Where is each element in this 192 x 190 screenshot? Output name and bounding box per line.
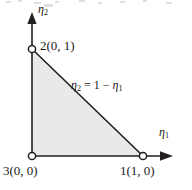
hypotenuse-equation-label: η2 = 1 − η1	[71, 79, 123, 93]
equation-operator: =	[84, 78, 91, 92]
equation-rhs-subscript: 1	[119, 84, 123, 93]
equation-lhs-subscript: 2	[77, 84, 81, 93]
vertex-marker-node-1	[139, 152, 146, 159]
figure-canvas	[0, 0, 192, 190]
reference-triangle-figure: η2 η1 2(0, 1) 3(0, 0) 1(1, 0) η2 = 1 − η…	[0, 0, 192, 190]
vertex-label-node-3: 3(0, 0)	[3, 164, 38, 177]
x-axis-label: η1	[159, 126, 169, 140]
vertex-marker-node-2	[28, 45, 35, 52]
y-axis-label-subscript: 2	[44, 8, 48, 17]
arrow-up-icon	[27, 12, 36, 24]
x-axis-label-subscript: 1	[165, 131, 169, 140]
vertex-marker-node-3	[28, 152, 35, 159]
equation-rhs-minus: −	[103, 78, 110, 92]
y-axis-label: η2	[38, 3, 48, 17]
vertex-label-node-2: 2(0, 1)	[40, 39, 75, 52]
equation-rhs-constant: 1	[94, 78, 100, 92]
vertex-label-node-1: 1(1, 0)	[120, 164, 155, 177]
arrow-right-icon	[160, 151, 173, 161]
